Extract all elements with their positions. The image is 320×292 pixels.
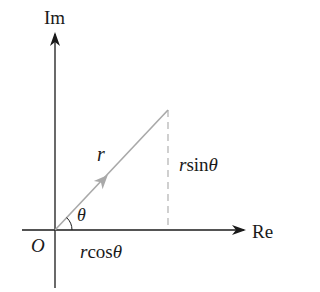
vector-r-label: r xyxy=(97,144,105,164)
r-sin-func: sin xyxy=(186,154,208,175)
r-cos-func: cos xyxy=(87,241,112,262)
vector-r xyxy=(55,110,168,230)
theta-label: θ xyxy=(77,206,86,224)
origin-label: O xyxy=(31,236,45,255)
theta-angle-arc xyxy=(67,218,72,230)
r-cos-theta-label: rcosθ xyxy=(80,242,122,261)
im-axis-label: Im xyxy=(44,8,65,27)
re-axis-label: Re xyxy=(252,222,273,241)
r-sin-var: θ xyxy=(209,154,218,175)
r-cos-var: θ xyxy=(113,241,122,262)
r-sin-theta-label: rsinθ xyxy=(179,155,218,174)
